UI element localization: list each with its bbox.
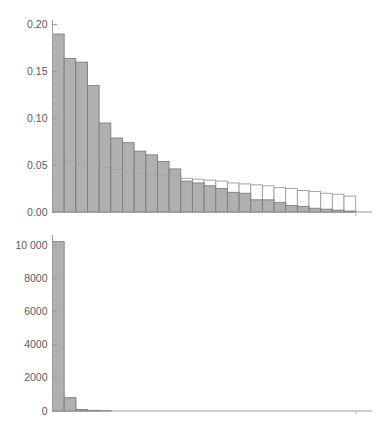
y-tick-label: 4000 xyxy=(24,338,48,350)
bar-observed xyxy=(146,155,158,212)
bar-observed xyxy=(309,208,321,212)
figure-two-panel-histograms: 0.000.050.100.150.20 0200040006000800010… xyxy=(0,0,379,438)
y-tick-label: 0.00 xyxy=(27,206,48,218)
bar-observed xyxy=(157,161,169,212)
bottom-panel-count-histogram: 0200040006000800010 000 xyxy=(0,225,379,438)
bar-observed xyxy=(76,62,88,212)
bar-observed xyxy=(64,398,76,411)
y-tick-label: 0.10 xyxy=(27,112,48,124)
probability-histogram-plot: 0.000.050.100.150.20 xyxy=(0,0,379,225)
bar-observed xyxy=(227,192,239,212)
bar-observed xyxy=(192,183,204,212)
bar-observed xyxy=(286,205,298,212)
bar-observed xyxy=(64,58,76,212)
bar-observed xyxy=(134,151,146,212)
top-panel-probability-histogram: 0.000.050.100.150.20 xyxy=(0,0,379,225)
bar-observed xyxy=(204,186,216,212)
bar-observed xyxy=(53,34,65,212)
bar-observed xyxy=(169,169,181,212)
count-histogram-plot: 0200040006000800010 000 xyxy=(0,225,379,438)
bar-observed xyxy=(262,200,274,212)
bar-expected xyxy=(344,196,356,212)
bar-observed xyxy=(216,189,228,212)
bar-observed xyxy=(274,203,286,212)
y-tick-label: 0.20 xyxy=(27,18,48,30)
y-tick-label: 10 000 xyxy=(15,239,47,251)
bar-observed xyxy=(239,193,251,212)
bar-expected xyxy=(332,194,344,212)
bar-series-observed xyxy=(53,242,111,411)
y-tick-label: 8000 xyxy=(24,272,48,284)
y-tick-label: 0 xyxy=(42,405,48,417)
y-tick-label: 6000 xyxy=(24,305,48,317)
bar-observed xyxy=(297,206,309,212)
axis-lines xyxy=(53,235,373,411)
y-tick-label: 0.15 xyxy=(27,65,48,77)
bar-observed xyxy=(122,143,134,212)
bar-observed xyxy=(111,138,123,212)
bar-series-observed xyxy=(53,34,356,212)
bar-observed xyxy=(99,123,111,212)
bar-observed xyxy=(251,200,263,212)
y-tick-label: 2000 xyxy=(24,371,48,383)
y-tick-label: 0.05 xyxy=(27,159,48,171)
bar-observed xyxy=(87,86,99,212)
bar-observed xyxy=(181,181,193,212)
